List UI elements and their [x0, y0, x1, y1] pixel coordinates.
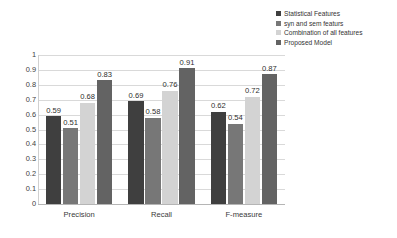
bar-rect[interactable] — [262, 74, 278, 204]
chart-plot-area: 0.590.510.680.830.690.580.760.910.620.54… — [38, 55, 285, 205]
bar-value-label: 0.83 — [97, 71, 112, 79]
bar-item[interactable]: 0.83 — [97, 66, 113, 204]
y-axis-tick-label: 0.8 — [26, 81, 36, 88]
bar-rect[interactable] — [179, 68, 195, 204]
y-axis-tick-label: 0.4 — [26, 141, 36, 148]
bar-item[interactable]: 0.54 — [228, 110, 244, 204]
y-axis-tick-labels: 10.90.80.70.60.50.40.30.20.10 — [14, 55, 36, 205]
x-axis-category-labels: PrecisionRecallF-measure — [38, 210, 285, 224]
bar-group: 0.590.510.680.83 — [38, 55, 120, 204]
legend-swatch-icon — [276, 21, 281, 26]
bar-series-container: 0.590.510.680.830.690.580.760.910.620.54… — [38, 55, 285, 205]
y-axis-tick-label: 0.7 — [26, 96, 36, 103]
bar-rect[interactable] — [228, 124, 244, 204]
legend-item-label: Statistical Features — [284, 10, 340, 17]
y-axis-tick-label: 0.5 — [26, 126, 36, 133]
bar-item[interactable]: 0.69 — [128, 87, 144, 204]
legend-item-label: Proposed Model — [284, 39, 332, 46]
bar-value-label: 0.72 — [245, 87, 260, 95]
legend-item: Proposed Model — [276, 38, 397, 47]
bar-rect[interactable] — [245, 97, 261, 204]
y-axis-tick-label: 0.3 — [26, 156, 36, 163]
bar-value-label: 0.69 — [129, 92, 144, 100]
legend-swatch-icon — [276, 30, 281, 35]
bar-rect[interactable] — [63, 128, 79, 204]
bar-rect[interactable] — [211, 112, 227, 204]
bar-item[interactable]: 0.51 — [63, 114, 79, 204]
bar-value-label: 0.58 — [146, 108, 161, 116]
y-axis-tick-label: 0.1 — [26, 185, 36, 192]
legend-swatch-icon — [276, 40, 281, 45]
bar-group: 0.620.540.720.87 — [203, 55, 285, 204]
bar-value-label: 0.68 — [80, 93, 95, 101]
bar-item[interactable]: 0.76 — [162, 77, 178, 204]
y-axis-tick-label: 0 — [32, 200, 36, 207]
x-axis-category-label: Precision — [64, 210, 95, 219]
bar-group: 0.690.580.760.91 — [120, 55, 202, 204]
legend-item-label: syn and sem featurs — [284, 20, 343, 27]
bar-rect[interactable] — [145, 118, 161, 204]
bar-value-label: 0.91 — [180, 59, 195, 67]
bar-item[interactable]: 0.72 — [245, 83, 261, 204]
bar-rect[interactable] — [80, 103, 96, 204]
bar-rect[interactable] — [128, 101, 144, 204]
bar-value-label: 0.76 — [163, 81, 178, 89]
bar-value-label: 0.59 — [46, 107, 61, 115]
y-axis-tick-label: 0.6 — [26, 111, 36, 118]
y-axis-tick-label: 0.9 — [26, 66, 36, 73]
legend-item: Combination of all features — [276, 28, 397, 37]
bar-rect[interactable] — [46, 116, 62, 204]
legend-item: syn and sem featurs — [276, 19, 397, 28]
bar-item[interactable]: 0.91 — [179, 54, 195, 204]
chart-legend: Statistical Features syn and sem featurs… — [276, 9, 397, 47]
y-axis-tick-label: 0.2 — [26, 170, 36, 177]
y-axis-tick-label: 1 — [32, 51, 36, 58]
bar-value-label: 0.51 — [63, 119, 78, 127]
bar-item[interactable]: 0.58 — [145, 104, 161, 204]
bar-item[interactable]: 0.87 — [262, 60, 278, 204]
bar-value-label: 0.62 — [211, 102, 226, 110]
bar-item[interactable]: 0.59 — [46, 102, 62, 204]
legend-swatch-icon — [276, 11, 281, 16]
bar-rect[interactable] — [162, 91, 178, 204]
bar-item[interactable]: 0.68 — [80, 89, 96, 204]
bar-rect[interactable] — [97, 80, 113, 204]
bar-item[interactable]: 0.62 — [211, 98, 227, 204]
bar-value-label: 0.54 — [228, 114, 243, 122]
x-axis-category-label: Recall — [151, 210, 172, 219]
x-axis-category-label: F-measure — [225, 210, 262, 219]
legend-item: Statistical Features — [276, 9, 397, 18]
legend-item-label: Combination of all features — [284, 29, 362, 36]
bar-value-label: 0.87 — [262, 65, 277, 73]
